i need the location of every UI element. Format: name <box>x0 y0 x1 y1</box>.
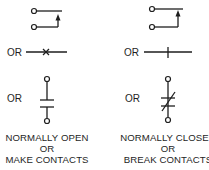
or-label: OR <box>7 93 22 104</box>
svg-text:MAKE CONTACTS: MAKE CONTACTS <box>5 154 88 165</box>
relay-contact-closed-icon <box>150 7 184 30</box>
relay-contact-open-icon <box>32 9 63 30</box>
svg-text:OR: OR <box>40 143 55 154</box>
caption-normally-closed: NORMALLY CLOSED OR BREAK CONTACTS <box>120 132 209 165</box>
contact-symbols-diagram: OR OR NORMALLY OPEN OR MAKE CONTACTS OR … <box>0 0 209 170</box>
line-contact-tick-icon <box>144 47 192 58</box>
svg-text:NORMALLY OPEN: NORMALLY OPEN <box>5 132 88 143</box>
or-label: OR <box>7 47 22 58</box>
line-contact-x-icon <box>26 49 67 55</box>
svg-text:BREAK CONTACTS: BREAK CONTACTS <box>124 154 209 165</box>
svg-text:NORMALLY CLOSED: NORMALLY CLOSED <box>120 132 209 143</box>
or-label: OR <box>125 93 140 104</box>
caption-normally-open: NORMALLY OPEN OR MAKE CONTACTS <box>5 132 88 165</box>
capacitor-style-contact-closed-icon <box>161 77 175 123</box>
svg-text:OR: OR <box>161 143 176 154</box>
capacitor-style-contact-open-icon <box>40 77 54 124</box>
or-label: OR <box>124 47 139 58</box>
